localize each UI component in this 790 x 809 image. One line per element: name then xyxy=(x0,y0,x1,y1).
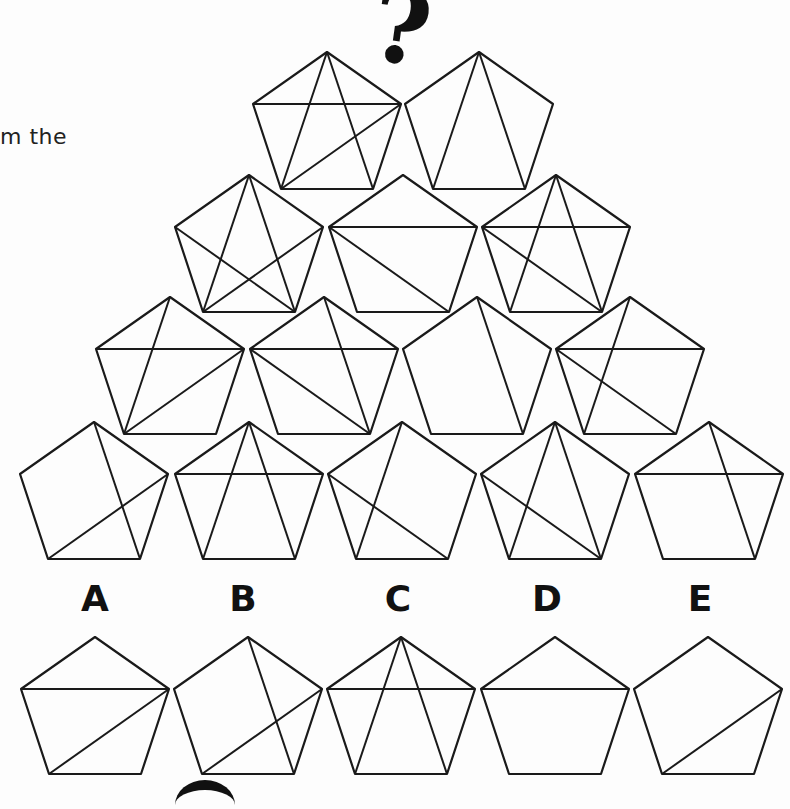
pentagon-outline xyxy=(403,297,551,434)
diagonal-line xyxy=(48,474,168,559)
option-label-d[interactable]: D xyxy=(532,578,562,619)
pyramid-pentagon-r3-4 xyxy=(556,297,704,434)
pyramid-pentagon-r4-5 xyxy=(635,422,783,559)
option-label-c[interactable]: C xyxy=(385,578,411,619)
pyramid-pentagons xyxy=(20,52,783,559)
diagonal-line xyxy=(556,175,602,312)
option-pentagon-e[interactable] xyxy=(634,637,782,774)
pyramid-pentagon-r3-2 xyxy=(250,297,398,434)
diagonal-line xyxy=(482,227,602,312)
option-label-b[interactable]: B xyxy=(229,578,256,619)
diagonal-line xyxy=(477,297,523,434)
diagonal-line xyxy=(556,349,676,434)
diagonal-line xyxy=(324,297,370,434)
option-label-a[interactable]: A xyxy=(81,578,109,619)
pyramid-pentagon-r2-2 xyxy=(329,175,477,312)
option-pentagon-b[interactable] xyxy=(174,637,322,774)
option-pentagon-c[interactable] xyxy=(327,637,475,774)
option-pentagon-d[interactable] xyxy=(481,637,629,774)
pyramid-pentagon-r2-1 xyxy=(175,175,323,312)
diagonal-line xyxy=(202,689,322,774)
diagonal-line xyxy=(327,52,373,189)
diagonal-line xyxy=(281,104,401,189)
diagonal-line xyxy=(479,52,525,189)
diagonal-line xyxy=(203,175,249,312)
diagonal-line xyxy=(175,227,295,312)
pyramid-pentagon-r4-1 xyxy=(20,422,168,559)
pyramid-pentagon-r4-2 xyxy=(175,422,323,559)
diagonal-line xyxy=(250,349,370,434)
answer-option-pentagons xyxy=(21,637,782,774)
option-label-e[interactable]: E xyxy=(688,578,713,619)
diagonal-line xyxy=(433,52,479,189)
pyramid-pentagon-r3-3 xyxy=(403,297,551,434)
pentagon-outline xyxy=(635,422,783,559)
diagonal-line xyxy=(248,637,294,774)
diagonal-line xyxy=(203,227,323,312)
diagonal-line xyxy=(401,637,447,774)
diagonal-line xyxy=(509,422,555,559)
diagonal-line xyxy=(94,422,140,559)
diagonal-line xyxy=(281,52,327,189)
diagonal-line xyxy=(584,297,630,434)
diagonal-line xyxy=(249,175,295,312)
pentagon-outline xyxy=(481,637,629,774)
pentagon-outline xyxy=(405,52,553,189)
pentagon-outline xyxy=(327,637,475,774)
pentagon-outline xyxy=(175,422,323,559)
diagonal-line xyxy=(328,474,448,559)
pyramid-pentagon-r4-4 xyxy=(481,422,629,559)
diagonal-line xyxy=(510,175,556,312)
pyramid-pentagon-r1-2 xyxy=(405,52,553,189)
diagonal-line xyxy=(203,422,249,559)
pyramid-pentagon-r1-1 xyxy=(253,52,401,189)
diagonal-line xyxy=(555,422,601,559)
pyramid-pentagon-r3-1 xyxy=(96,297,244,434)
option-pentagon-a[interactable] xyxy=(21,637,169,774)
diagonal-line xyxy=(356,422,402,559)
diagonal-line xyxy=(329,227,449,312)
diagonal-line xyxy=(124,297,170,434)
pyramid-pentagon-r4-3 xyxy=(328,422,476,559)
diagonal-line xyxy=(709,422,755,559)
diagonal-line xyxy=(49,689,169,774)
diagonal-line xyxy=(481,474,601,559)
diagonal-line xyxy=(662,689,782,774)
diagonal-line xyxy=(124,349,244,434)
diagonal-line xyxy=(355,637,401,774)
pyramid-pentagon-r2-3 xyxy=(482,175,630,312)
diagonal-line xyxy=(249,422,295,559)
